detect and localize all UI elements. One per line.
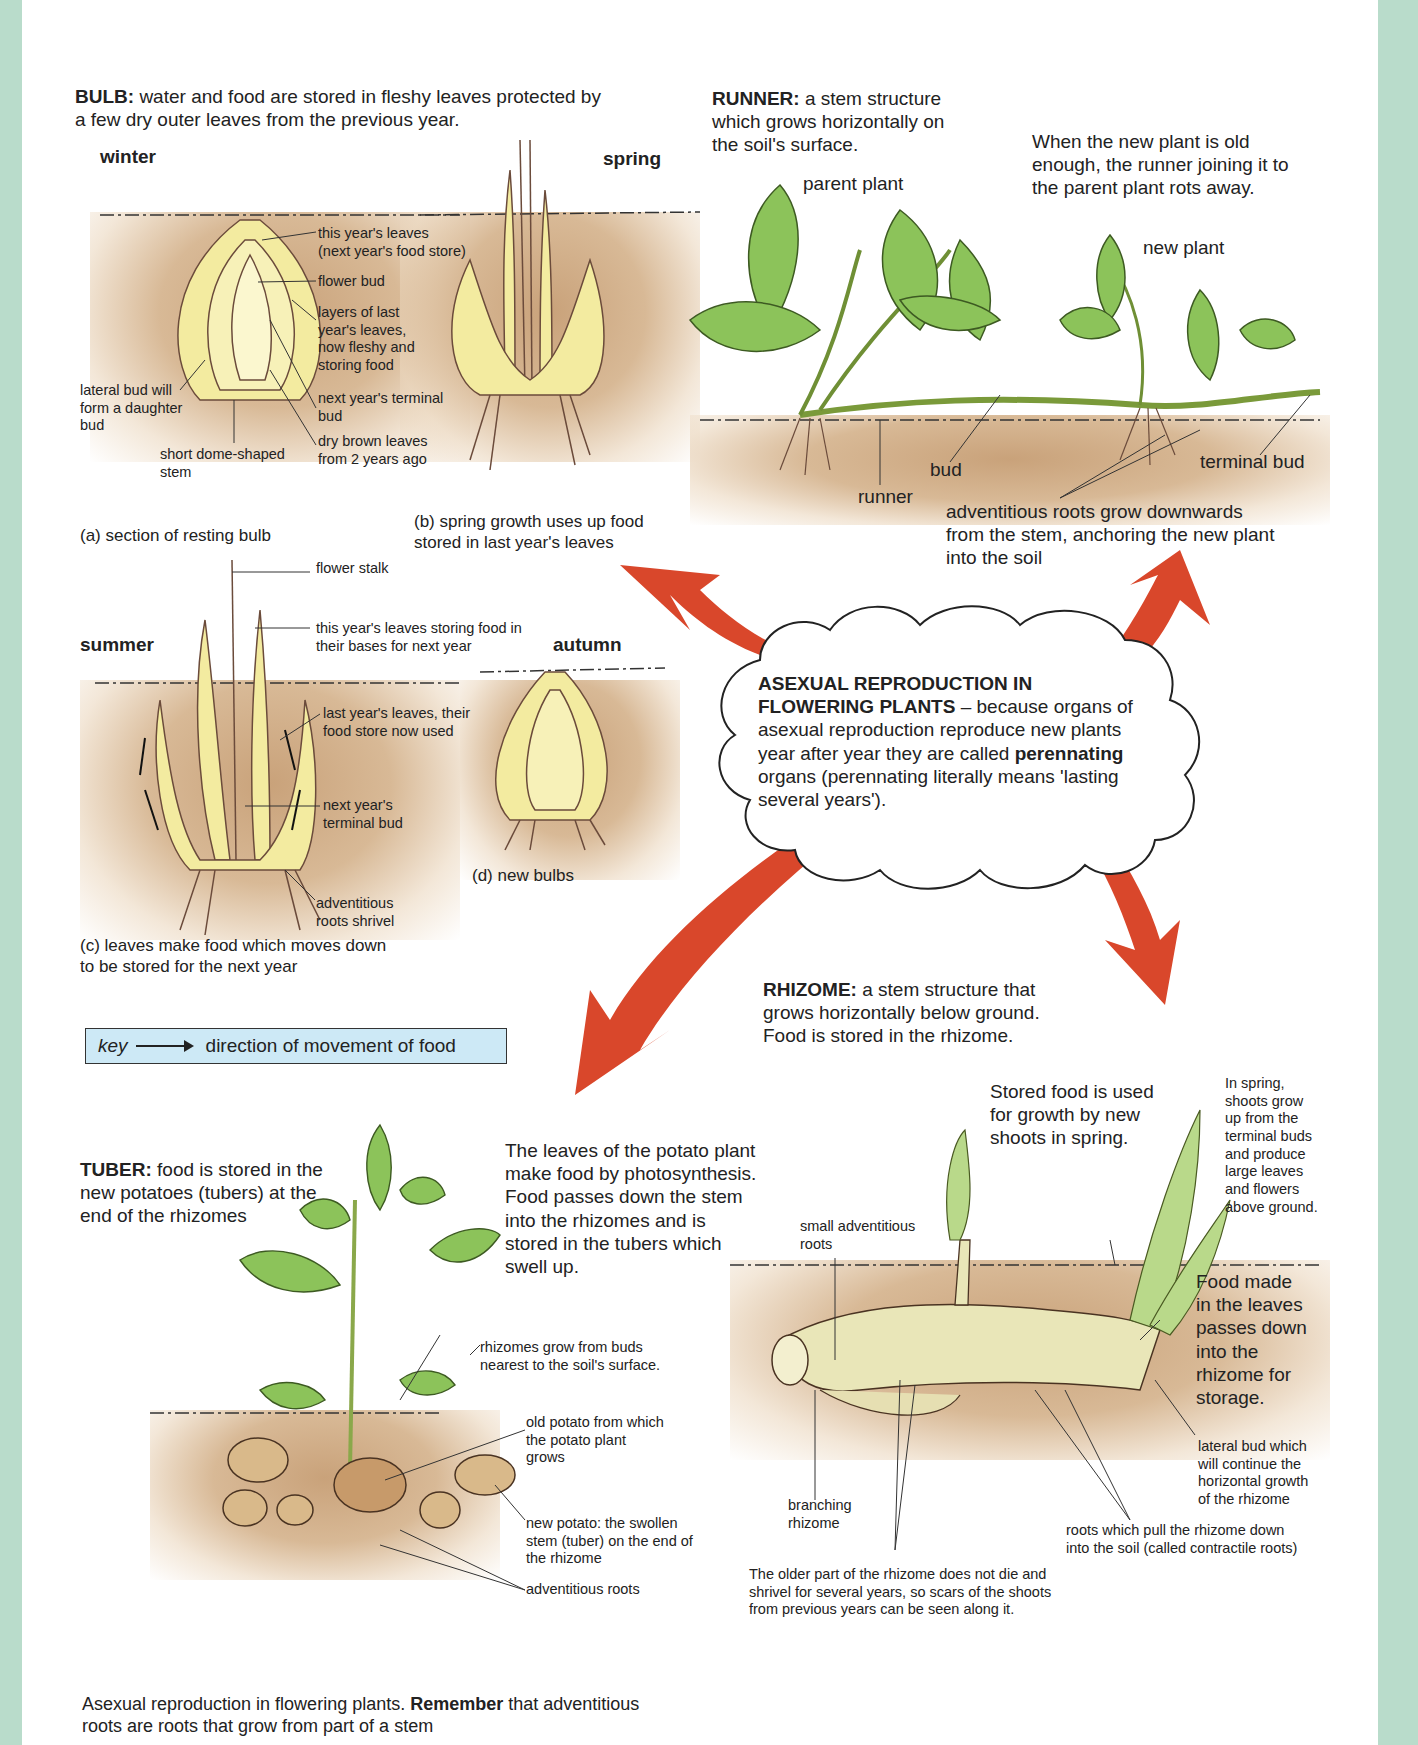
rhizome-drawing (772, 1110, 1230, 1550)
label-new-plant: new plant (1143, 236, 1224, 259)
caption-b: (b) spring growth uses up food stored in… (414, 512, 644, 553)
runner-heading: RUNNER: a stem structure which grows hor… (712, 87, 944, 157)
label-this-years-leaves: this year's leaves (next year's food sto… (318, 225, 466, 260)
label-roots-shrivel: adventitious roots shrivel (316, 895, 394, 930)
tuber-heading-bold: TUBER: (80, 1159, 152, 1180)
bulb-autumn-drawing (496, 672, 607, 850)
rhizome-heading: RHIZOME: a stem structure that grows hor… (763, 978, 1040, 1048)
label-lateral-bud: lateral bud will form a daughter bud (80, 382, 182, 435)
label-small-adventitious-roots: small adventitious roots (800, 1218, 915, 1253)
key-legend: key direction of movement of food (85, 1028, 507, 1064)
tuber-leaves-note: The leaves of the potato plant make food… (505, 1139, 756, 1278)
label-runner-adventitious: adventitious roots grow downwards from t… (946, 500, 1274, 570)
rhizome-food-made: Food made in the leaves passes down into… (1196, 1270, 1307, 1409)
label-next-years-terminal: next year's terminal bud (323, 797, 403, 832)
label-runner: runner (858, 485, 913, 508)
bulb-winter-drawing (178, 220, 321, 400)
rhizome-heading-bold: RHIZOME: (763, 979, 857, 1000)
figure-caption-text-1: Asexual reproduction in flowering plants… (82, 1694, 410, 1714)
label-adventitious-roots: adventitious roots (526, 1581, 640, 1599)
label-lateral-bud-rhizome: lateral bud which will continue the hori… (1198, 1438, 1308, 1509)
season-summer: summer (80, 633, 154, 656)
rhizome-older-part: The older part of the rhizome does not d… (749, 1566, 1051, 1619)
label-this-years-storing: this year's leaves storing food in their… (316, 620, 522, 655)
label-contractile-roots: roots which pull the rhizome down into t… (1066, 1522, 1297, 1557)
runner-heading-bold: RUNNER: (712, 88, 800, 109)
center-text-2: organs (perennating literally means 'las… (758, 766, 1119, 810)
center-text-bold: perennating (1015, 743, 1124, 764)
label-bud: bud (930, 458, 962, 481)
label-terminal-bud: terminal bud (1200, 450, 1305, 473)
arrow-right-icon (136, 1045, 192, 1047)
label-rhizomes-grow: rhizomes grow from buds nearest to the s… (480, 1339, 660, 1374)
label-branching-rhizome: branching rhizome (788, 1497, 852, 1532)
caption-c: (c) leaves make food which moves down to… (80, 936, 386, 977)
bulb-heading-text: water and food are stored in fleshy leav… (75, 86, 601, 130)
rhizome-stored-food: Stored food is used for growth by new sh… (990, 1080, 1154, 1150)
key-text: direction of movement of food (206, 1035, 456, 1057)
season-winter: winter (100, 145, 156, 168)
label-flower-stalk: flower stalk (316, 560, 389, 578)
label-last-years-used: last year's leaves, their food store now… (323, 705, 470, 740)
bulb-heading-bold: BULB: (75, 86, 134, 107)
figure-caption: Asexual reproduction in flowering plants… (82, 1694, 639, 1738)
label-old-potato: old potato from which the potato plant g… (526, 1414, 664, 1467)
label-short-stem: short dome-shaped stem (160, 446, 285, 481)
label-dry-brown-leaves: dry brown leaves from 2 years ago (318, 433, 428, 468)
bulb-spring-drawing (452, 140, 604, 470)
figure-caption-bold: Remember (410, 1694, 503, 1714)
tuber-heading: TUBER: food is stored in the new potatoe… (80, 1158, 323, 1228)
bulb-summer-drawing (140, 560, 320, 935)
runner-rot-note: When the new plant is old enough, the ru… (1032, 130, 1289, 200)
season-autumn: autumn (553, 633, 622, 656)
rhizome-in-spring: In spring, shoots grow up from the termi… (1225, 1075, 1318, 1217)
label-flower-bud: flower bud (318, 273, 385, 291)
caption-d: (d) new bulbs (472, 866, 574, 887)
key-label: key (98, 1035, 128, 1057)
bulb-heading: BULB: water and food are stored in flesh… (75, 85, 601, 131)
label-new-potato: new potato: the swollen stem (tuber) on … (526, 1515, 693, 1568)
season-spring: spring (603, 147, 661, 170)
label-parent-plant: parent plant (803, 172, 903, 195)
caption-a: (a) section of resting bulb (80, 526, 271, 547)
label-next-terminal-bud: next year's terminal bud (318, 390, 443, 425)
center-summary: ASEXUAL REPRODUCTION IN FLOWERING PLANTS… (758, 672, 1133, 811)
label-layers-last-year: layers of last year's leaves, now fleshy… (318, 304, 415, 375)
